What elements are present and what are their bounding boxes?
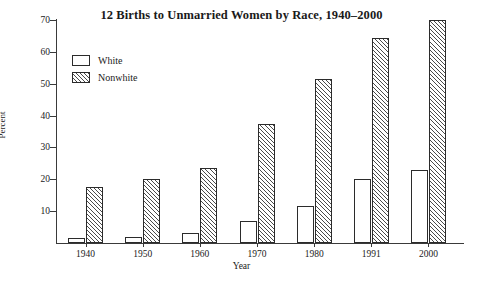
- bar-white-1940: [68, 238, 85, 243]
- bar-white-1950: [125, 237, 142, 243]
- x-tick-label-1960: 1960: [177, 249, 223, 259]
- y-tick-mark: [50, 84, 57, 85]
- y-tick-label-wrap: 70: [22, 20, 50, 21]
- y-tick-mark: [50, 52, 57, 53]
- x-tick-mark: [428, 243, 429, 247]
- x-axis-label: Year: [0, 261, 483, 271]
- x-tick-label-1991: 1991: [348, 249, 394, 259]
- x-tick-label-1980: 1980: [291, 249, 337, 259]
- bar-nonwhite-1940: [86, 187, 103, 243]
- bar-nonwhite-2000: [429, 20, 446, 243]
- bar-nonwhite-1991: [372, 38, 389, 243]
- bar-group: [297, 20, 332, 243]
- bar-group: [182, 20, 217, 243]
- y-tick-mark: [50, 20, 57, 21]
- y-tick-label-wrap: 10: [22, 211, 50, 212]
- y-tick-label: 60: [28, 47, 50, 56]
- x-tick-label-1970: 1970: [234, 249, 280, 259]
- bar-white-1991: [354, 179, 371, 243]
- bar-nonwhite-1960: [200, 168, 217, 243]
- chart-legend: White Nonwhite: [72, 52, 137, 86]
- bar-nonwhite-1970: [258, 124, 275, 243]
- x-tick-mark: [257, 243, 258, 247]
- bar-nonwhite-1950: [143, 179, 160, 243]
- y-tick-label: 10: [28, 207, 50, 216]
- y-tick-label-wrap: 40: [22, 116, 50, 117]
- x-tick-mark: [314, 243, 315, 247]
- y-tick-mark: [50, 179, 57, 180]
- bar-group: [240, 20, 275, 243]
- y-tick-label: 20: [28, 175, 50, 184]
- y-tick-mark: [50, 116, 57, 117]
- y-tick-label: 70: [28, 16, 50, 25]
- x-tick-mark: [200, 243, 201, 247]
- bar-group: [411, 20, 446, 243]
- legend-swatch-white: [72, 55, 90, 66]
- x-tick-label-2000: 2000: [405, 249, 451, 259]
- x-tick-mark: [371, 243, 372, 247]
- x-tick-label-1940: 1940: [63, 249, 109, 259]
- y-tick-mark: [50, 147, 57, 148]
- bar-white-1970: [240, 221, 257, 243]
- y-tick-label: 40: [28, 111, 50, 120]
- y-tick-label-wrap: 30: [22, 147, 50, 148]
- y-axis-label: Percent: [0, 112, 7, 139]
- bar-white-1960: [182, 233, 199, 243]
- y-tick-label: 50: [28, 79, 50, 88]
- bar-white-2000: [411, 170, 428, 243]
- x-tick-label-1950: 1950: [120, 249, 166, 259]
- legend-item-white: White: [72, 52, 137, 69]
- legend-item-nonwhite: Nonwhite: [72, 69, 137, 86]
- x-tick-mark: [143, 243, 144, 247]
- y-tick-label-wrap: 60: [22, 52, 50, 53]
- bar-chart: 12 Births to Unmarried Women by Race, 19…: [0, 0, 483, 284]
- bar-group: [354, 20, 389, 243]
- y-tick-label-wrap: 50: [22, 84, 50, 85]
- y-tick-label-wrap: 20: [22, 179, 50, 180]
- y-tick-mark: [50, 211, 57, 212]
- x-tick-mark: [86, 243, 87, 247]
- legend-label-nonwhite: Nonwhite: [98, 72, 137, 83]
- x-axis-line: [56, 243, 464, 244]
- bar-nonwhite-1980: [315, 79, 332, 243]
- legend-label-white: White: [98, 55, 122, 66]
- legend-swatch-nonwhite: [72, 72, 90, 83]
- bar-white-1980: [297, 206, 314, 243]
- y-tick-label: 30: [28, 143, 50, 152]
